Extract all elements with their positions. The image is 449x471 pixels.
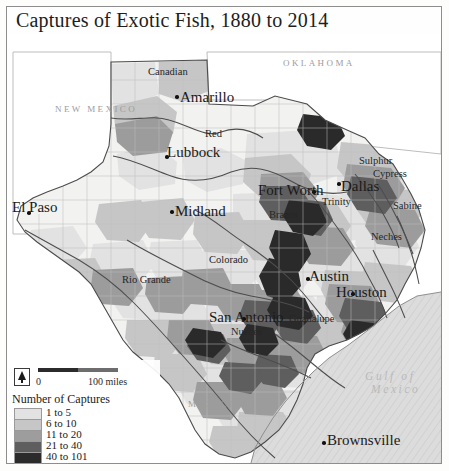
- river-label: Sabine: [393, 200, 422, 211]
- scale-end-label: 100 miles: [88, 376, 127, 387]
- city-label: Lubbock: [167, 144, 220, 161]
- city-dot: [322, 441, 326, 445]
- north-arrow-icon: [14, 368, 30, 386]
- scale-zero-label: 0: [36, 376, 41, 387]
- city-dot: [337, 182, 341, 186]
- city-label: Houston: [336, 284, 387, 301]
- city-label: Austin: [309, 268, 349, 285]
- river-label: Nueces: [231, 326, 262, 337]
- city-label: El Paso: [12, 199, 57, 216]
- river-label: Colorado: [209, 254, 248, 265]
- river-label: Rio Grande: [122, 274, 171, 285]
- city-label: Brownsville: [327, 432, 400, 449]
- river-label: Brazos: [269, 209, 298, 220]
- city-label: Midland: [175, 203, 226, 220]
- water-label: Gulf of: [365, 370, 415, 382]
- legend-swatch: [14, 452, 42, 464]
- scale-segment: [78, 368, 118, 372]
- city-label: Dallas: [341, 178, 379, 195]
- river-label: Sulphur: [359, 155, 392, 166]
- region-label: OKLAHOMA: [283, 58, 355, 68]
- city-dot: [170, 210, 174, 214]
- river-label: Trinity: [322, 196, 351, 207]
- legend-label: 40 to 101: [46, 450, 88, 462]
- region-label: MEXICO: [188, 399, 238, 409]
- city-label: Amarillo: [180, 89, 234, 106]
- river-label: Neches: [371, 231, 402, 242]
- scale-segment: [38, 368, 78, 372]
- city-dot: [175, 95, 179, 99]
- river-label: Canadian: [148, 66, 188, 77]
- legend-title: Number of Captures: [12, 392, 110, 407]
- page-title: Captures of Exotic Fish, 1880 to 2014: [16, 9, 328, 32]
- region-label: NEW MEXICO: [55, 104, 137, 114]
- city-label: San Antonio: [209, 309, 284, 326]
- map-figure: Captures of Exotic Fish, 1880 to 2014: [0, 0, 449, 471]
- river-label: Red: [205, 128, 222, 139]
- scale-bar: 0 100 miles: [14, 364, 154, 390]
- water-label: Mexico: [371, 383, 420, 395]
- city-label: Fort Worth: [258, 182, 324, 199]
- river-label: Guadalupe: [289, 313, 334, 324]
